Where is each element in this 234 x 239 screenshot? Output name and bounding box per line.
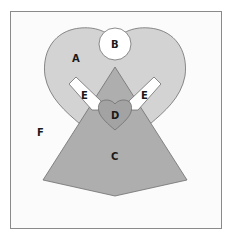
angel-diagram: A B C D E E F (0, 0, 234, 239)
label-d: D (111, 110, 119, 121)
label-e-right: E (141, 90, 148, 101)
label-c: C (111, 151, 118, 162)
label-e-left: E (81, 90, 88, 101)
label-a: A (72, 53, 80, 64)
label-b: B (111, 39, 119, 50)
label-f: F (37, 127, 44, 138)
